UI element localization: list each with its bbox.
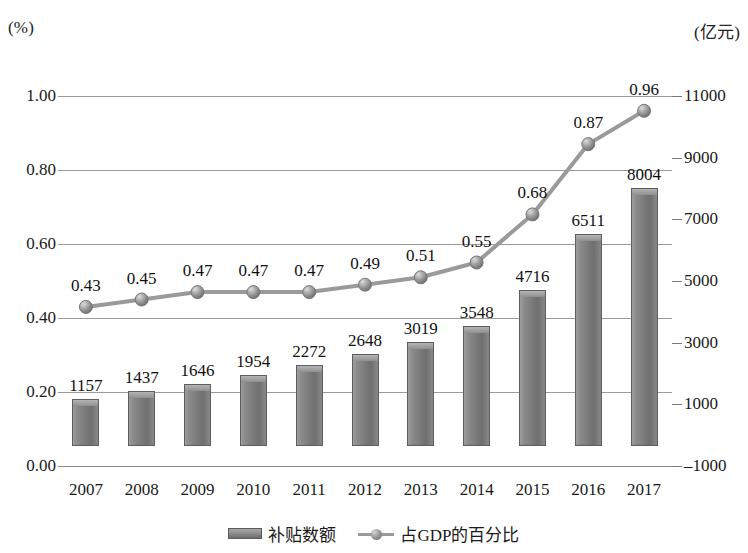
bar[interactable] — [184, 384, 211, 446]
x-axis-tick: 2017 — [613, 480, 675, 500]
line-marker[interactable] — [191, 286, 204, 299]
line-value-label: 0.68 — [501, 183, 563, 203]
line-value-label: 0.96 — [613, 80, 675, 100]
bar[interactable] — [463, 326, 490, 446]
legend-entry-bar[interactable]: 补贴数额 — [228, 521, 336, 546]
x-axis-tick: 2013 — [390, 480, 452, 500]
line-value-label: 0.47 — [222, 261, 284, 281]
left-axis-tick: 0.80 — [4, 160, 56, 180]
plot-area: 1157143716461954227226483019354847166511… — [58, 96, 672, 466]
bar-swatch-icon — [228, 528, 262, 539]
right-axis-tick: 3000 — [684, 333, 746, 353]
right-axis-tick: 7000 — [684, 209, 746, 229]
right-axis-tick-mark — [672, 219, 682, 220]
chart-figure: (%) (亿元) 1.000.800.600.400.200.00 110009… — [0, 0, 748, 553]
bar[interactable] — [72, 399, 99, 446]
right-axis-tick: 1000 — [684, 394, 746, 414]
legend-label-bar: 补贴数额 — [268, 521, 336, 546]
x-axis-tick: 2007 — [55, 480, 117, 500]
line-marker[interactable] — [414, 271, 427, 284]
right-axis-tick-mark — [672, 466, 682, 467]
right-axis-tick-mark — [672, 343, 682, 344]
line-value-label: 0.45 — [111, 269, 173, 289]
line-value-label: 0.49 — [334, 254, 396, 274]
bar[interactable] — [128, 391, 155, 446]
line-marker[interactable] — [79, 300, 92, 313]
line-marker[interactable] — [247, 286, 260, 299]
line-marker[interactable] — [303, 286, 316, 299]
line-marker[interactable] — [526, 208, 539, 221]
gridline — [58, 96, 672, 97]
line-value-label: 0.47 — [167, 261, 229, 281]
x-axis-tick: 2014 — [446, 480, 508, 500]
chart-legend: 补贴数额 占GDP的百分比 — [0, 521, 748, 546]
bar-value-label: 8004 — [609, 165, 679, 185]
legend-entry-line[interactable]: 占GDP的百分比 — [358, 521, 519, 546]
line-value-label: 0.87 — [557, 113, 619, 133]
line-value-label: 0.55 — [446, 232, 508, 252]
bar-value-label: 4716 — [497, 267, 567, 287]
right-axis-tick: –1000 — [684, 456, 746, 476]
right-axis-tick: 11000 — [684, 86, 746, 106]
x-axis-tick: 2008 — [111, 480, 173, 500]
line-value-label: 0.47 — [278, 261, 340, 281]
left-axis-tick: 0.40 — [4, 308, 56, 328]
x-axis-tick: 2011 — [278, 480, 340, 500]
x-axis-tick-labels: 2007200820092010201120122013201420152016… — [58, 480, 672, 506]
right-axis-unit-label: (亿元) — [694, 18, 740, 43]
bar-value-label: 6511 — [553, 211, 623, 231]
line-marker[interactable] — [135, 293, 148, 306]
line-marker[interactable] — [470, 256, 483, 269]
bar[interactable] — [407, 342, 434, 446]
bar-value-label: 3548 — [442, 303, 512, 323]
line-marker[interactable] — [359, 278, 372, 291]
left-axis-tick: 0.60 — [4, 234, 56, 254]
left-axis-tick: 0.00 — [4, 456, 56, 476]
bar[interactable] — [352, 354, 379, 446]
legend-label-line: 占GDP的百分比 — [400, 521, 519, 546]
line-marker[interactable] — [638, 104, 651, 117]
right-axis-tick-mark — [672, 158, 682, 159]
line-value-label: 0.43 — [55, 276, 117, 296]
line-swatch-icon — [358, 528, 394, 540]
right-axis-tick: 9000 — [684, 148, 746, 168]
left-axis-unit-label: (%) — [8, 18, 34, 38]
left-axis-tick: 0.20 — [4, 382, 56, 402]
bar[interactable] — [240, 375, 267, 446]
x-axis-tick: 2009 — [167, 480, 229, 500]
left-axis-tick: 1.00 — [4, 86, 56, 106]
right-axis-tick-mark — [672, 404, 682, 405]
bar[interactable] — [519, 290, 546, 446]
x-axis-tick: 2012 — [334, 480, 396, 500]
gridline — [58, 466, 672, 467]
right-axis-tick: 5000 — [684, 271, 746, 291]
bar[interactable] — [296, 365, 323, 446]
x-axis-tick: 2015 — [501, 480, 563, 500]
bar[interactable] — [575, 234, 602, 446]
right-axis-tick-mark — [672, 281, 682, 282]
line-marker[interactable] — [582, 138, 595, 151]
bar[interactable] — [631, 188, 658, 446]
gridline — [58, 170, 672, 171]
x-axis-tick: 2016 — [557, 480, 619, 500]
x-axis-tick: 2010 — [222, 480, 284, 500]
line-value-label: 0.51 — [390, 246, 452, 266]
